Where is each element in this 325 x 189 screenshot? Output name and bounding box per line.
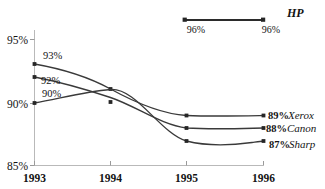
y-axis-labels: 95% 90% 85%	[7, 34, 29, 172]
x-axis-label-1996: 1996	[252, 172, 275, 184]
y-axis-label-90: 90%	[7, 98, 29, 110]
xerox-marker-1996	[262, 114, 266, 118]
line-chart: 95% 90% 85% 1993 1994 1995 1996 96% 96% …	[0, 0, 325, 189]
y-axis-label-85: 85%	[7, 160, 29, 172]
sharp-start-value: 90%	[42, 88, 62, 99]
hp-marker-1996	[261, 18, 265, 22]
series-hp: 96% 96% HP	[183, 6, 305, 35]
series-canon: 92% 88% Canon	[33, 75, 317, 134]
canon-marker-1995	[185, 126, 189, 130]
x-axis-label-1995: 1995	[175, 172, 198, 184]
canon-marker-1996	[262, 126, 266, 130]
hp-series-label: HP	[286, 6, 304, 20]
sharp-line	[35, 89, 264, 144]
sharp-marker-1995	[185, 139, 189, 143]
x-axis-label-1994: 1994	[99, 172, 122, 184]
hp-value-1996: 96%	[262, 24, 280, 35]
xerox-marker-1995	[185, 114, 189, 118]
canon-end-name: Canon	[287, 122, 317, 134]
xerox-marker-1993	[33, 62, 37, 66]
canon-marker-1993	[33, 75, 37, 79]
hp-marker-1995	[183, 18, 187, 22]
sharp-marker-1996	[262, 139, 266, 143]
sharp-end-name: Sharp	[289, 138, 316, 150]
x-axis-label-1993: 1993	[23, 172, 46, 184]
sharp-marker-1993	[33, 101, 37, 105]
sharp-end-value: 87%	[269, 139, 290, 150]
xerox-line	[35, 64, 264, 116]
xerox-end-value: 89%	[268, 110, 289, 121]
y-axis-label-95: 95%	[7, 34, 29, 46]
sharp-marker-1994	[109, 100, 113, 104]
chart-canvas: 95% 90% 85% 1993 1994 1995 1996 96% 96% …	[0, 0, 325, 189]
hp-value-1995: 96%	[187, 24, 205, 35]
canon-start-value: 92%	[41, 75, 61, 86]
xerox-start-value: 93%	[43, 50, 63, 61]
canon-end-value: 88%	[266, 123, 287, 134]
series-xerox: 93% 89% Xerox	[33, 50, 314, 121]
canon-line	[35, 77, 264, 129]
xerox-end-name: Xerox	[287, 109, 314, 121]
x-axis-labels: 1993 1994 1995 1996	[23, 172, 275, 184]
